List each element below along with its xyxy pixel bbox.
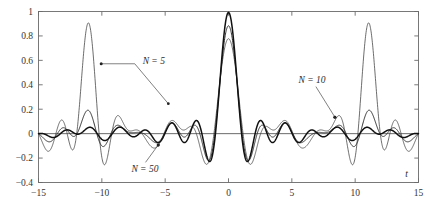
x-tick-label: −10 (94, 188, 109, 198)
annotation-label-1: N = 10 (298, 75, 326, 85)
annotation-label-2: N = 50 (130, 164, 158, 174)
annotation-label-0: N = 5 (142, 56, 165, 66)
annotation-marker-0 (100, 62, 103, 65)
y-tick-label: 1 (28, 7, 33, 17)
y-tick-label: −0.2 (16, 153, 33, 163)
annotation-arrow-0 (167, 102, 170, 105)
y-tick-label: 0.2 (21, 105, 33, 115)
figure-container: −15−10−5051015−0.4−0.200.20.40.60.81tN =… (0, 0, 431, 209)
x-tick-label: −5 (160, 188, 170, 198)
y-tick-label: −0.4 (16, 178, 33, 188)
x-tick-label: 5 (289, 188, 294, 198)
y-tick-label: 0.6 (21, 56, 33, 66)
x-tick-label: 10 (350, 188, 360, 198)
x-tick-label: 15 (414, 188, 424, 198)
annotation-arrow-2 (157, 144, 160, 147)
x-axis-label: t (405, 169, 408, 179)
annotation-arrow-1 (334, 116, 337, 119)
y-tick-label: 0 (28, 129, 33, 139)
y-tick-label: 0.4 (21, 80, 33, 90)
y-tick-label: 0.8 (21, 31, 33, 41)
sinc-reconstruction-chart: −15−10−5051015−0.4−0.200.20.40.60.81tN =… (0, 0, 431, 209)
x-tick-label: −15 (31, 188, 46, 198)
x-tick-label: 0 (226, 188, 231, 198)
